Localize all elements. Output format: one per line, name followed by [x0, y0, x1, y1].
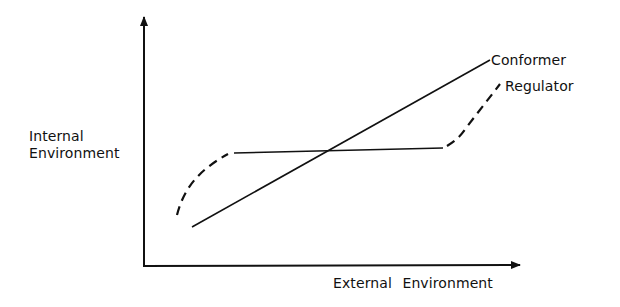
y-axis-label-line1: Internal: [29, 128, 120, 145]
conformer-line: [192, 60, 490, 227]
y-axis-label-line2: Environment: [29, 145, 120, 162]
x-axis-label: External Environment: [333, 275, 493, 292]
regulator-plateau-segment: [234, 148, 443, 153]
conformer-label: Conformer: [491, 52, 566, 69]
regulator-label: Regulator: [505, 78, 574, 95]
regulator-high-dashed-segment: [447, 84, 500, 146]
y-axis-label: Internal Environment: [29, 128, 120, 162]
regulator-low-dashed-segment: [177, 154, 228, 215]
x-axis: [143, 265, 520, 266]
